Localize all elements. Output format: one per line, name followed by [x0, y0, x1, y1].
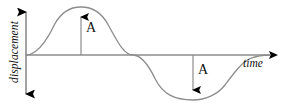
wave-diagram-figure: displacement time A A: [0, 0, 284, 107]
y-axis-label: displacement: [8, 14, 20, 90]
sine-wave-curve: [26, 7, 270, 100]
amplitude-label-trough: A: [198, 62, 208, 78]
x-axis-label: time: [243, 57, 263, 69]
wave-diagram-canvas: [0, 0, 284, 107]
amplitude-label-crest: A: [86, 20, 96, 36]
